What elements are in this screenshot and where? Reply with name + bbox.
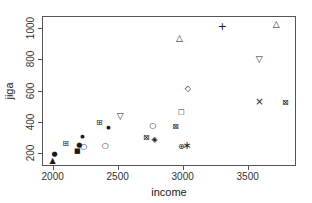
data-point-plus: + — [218, 20, 227, 31]
y-axis-label: jiga — [3, 82, 15, 99]
data-point-square-x: ⊠ — [172, 123, 179, 131]
y-tick-label: 800 — [25, 51, 36, 68]
y-tick-mark — [38, 91, 42, 92]
y-tick-mark — [38, 122, 42, 123]
x-axis-label: income — [151, 186, 186, 198]
x-tick-mark — [183, 166, 184, 170]
x-tick-mark — [248, 166, 249, 170]
data-point-square-plus: ⊞ — [96, 119, 103, 127]
data-point-square-plus: ⊞ — [62, 140, 69, 148]
x-tick-label: 2500 — [107, 171, 129, 182]
x-tick-mark — [118, 166, 119, 170]
data-point-square-x: ⊠ — [143, 134, 150, 142]
y-tick-label: 600 — [25, 82, 36, 99]
x-tick-label: 2000 — [42, 171, 64, 182]
data-point-open-diamond: ◇ — [185, 85, 191, 93]
data-point-x-cross: × — [255, 97, 263, 107]
data-point-filled-square: ■ — [74, 147, 81, 154]
x-tick-mark — [53, 166, 54, 170]
y-tick-mark — [38, 59, 42, 60]
data-point-open-triangle-down: ▽ — [117, 112, 124, 121]
data-point-open-circle: ○ — [149, 122, 156, 130]
data-point-filled-circle: ● — [52, 151, 58, 158]
data-point-open-circle: ○ — [102, 142, 109, 150]
x-tick-label: 3000 — [172, 171, 194, 182]
data-point-open-square: □ — [178, 108, 185, 115]
x-tick-label: 3500 — [237, 171, 259, 182]
data-point-filled-triangle-up: ▲ — [50, 157, 56, 165]
data-point-filled-circle-small: ● — [80, 133, 84, 138]
scatter-plot-figure: income jiga 2000250030003500200400600800… — [0, 0, 312, 203]
data-point-open-triangle-down: ▽ — [256, 54, 263, 63]
y-tick-mark — [38, 28, 42, 29]
data-point-diamond-plus: ◈ — [152, 136, 158, 144]
data-point-open-triangle-up: △ — [273, 19, 280, 28]
data-point-square-x: ⊠ — [282, 99, 289, 107]
y-tick-mark — [38, 153, 42, 154]
data-point-filled-circle-small: ● — [106, 125, 110, 130]
data-point-asterisk: ∗ — [183, 140, 192, 151]
data-point-open-circle: ○ — [80, 143, 87, 151]
y-tick-label: 200 — [25, 145, 36, 162]
data-point-open-triangle-up: △ — [176, 34, 183, 43]
y-tick-label: 400 — [25, 114, 36, 131]
y-tick-label: 1000 — [25, 17, 36, 39]
